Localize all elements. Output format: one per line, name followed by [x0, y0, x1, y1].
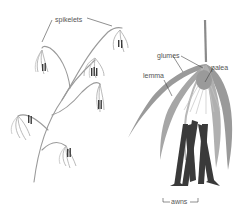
grass-illustration — [0, 0, 243, 212]
small-spikelet — [113, 30, 128, 52]
label-palea: palea — [211, 64, 228, 71]
small-spikelet — [97, 84, 104, 112]
panicle-stems — [18, 28, 122, 182]
awns-illustration — [170, 120, 220, 186]
enlarged-spikelet — [128, 20, 232, 186]
small-spikelet — [35, 50, 48, 74]
label-lemma: lemma — [143, 72, 164, 79]
label-awns: awns — [171, 198, 187, 205]
diagram-canvas: spikelets glumes lemma palea awns — [0, 0, 243, 212]
small-spikelet — [11, 116, 30, 140]
label-glumes: glumes — [157, 52, 180, 59]
label-spikelets: spikelets — [55, 16, 82, 23]
